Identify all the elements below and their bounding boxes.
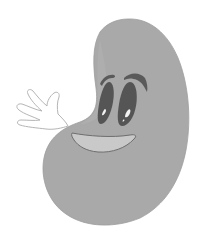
bean-character-svg (0, 0, 208, 238)
bean-character-illustration (0, 0, 208, 238)
waving-hand (17, 90, 68, 130)
hand-icon (17, 90, 68, 130)
